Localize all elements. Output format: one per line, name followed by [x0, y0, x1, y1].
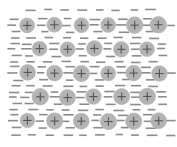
positive-ion: [139, 88, 155, 104]
positive-ion: [100, 113, 116, 129]
positive-ion: [101, 18, 116, 33]
positive-ion: [20, 65, 36, 81]
positive-ion: [126, 113, 142, 129]
positive-ion: [47, 17, 62, 32]
positive-ion: [74, 18, 89, 33]
positive-ion: [86, 89, 102, 105]
lattice-diagram-canvas: [0, 0, 177, 147]
positive-ion: [140, 42, 155, 57]
positive-ion: [47, 65, 63, 81]
positive-ion: [87, 41, 103, 57]
positive-ion: [59, 90, 75, 106]
positive-ion: [60, 42, 75, 57]
positive-ion: [47, 113, 63, 129]
positive-ion: [73, 113, 89, 129]
positive-ion: [32, 89, 49, 106]
positive-ion: [32, 41, 47, 56]
positive-ion: [113, 42, 129, 58]
positive-ion: [20, 113, 35, 128]
positive-ion: [152, 66, 168, 82]
positive-ion: [114, 89, 130, 105]
positive-ion: [126, 65, 142, 81]
positive-ion: [73, 65, 89, 81]
positive-ion: [151, 113, 167, 129]
positive-ion: [101, 66, 116, 81]
ion-lattice-figure: [0, 0, 177, 147]
positive-ion: [20, 18, 35, 33]
positive-ion: [150, 16, 167, 33]
positive-ion: [126, 17, 143, 34]
